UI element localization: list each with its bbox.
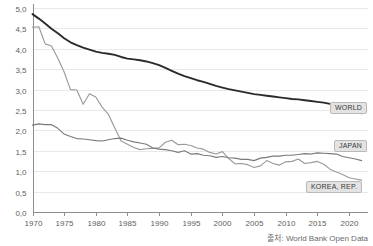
- y-axis-tick-label: 1,5: [15, 148, 27, 157]
- x-axis-tick-label: 1990: [151, 219, 169, 228]
- series-label-korea: KOREA, REP.: [306, 181, 362, 193]
- y-axis-tick-label: 4,0: [15, 46, 27, 55]
- x-axis-tick-label: 2000: [214, 219, 232, 228]
- y-axis-tick-label: 0,5: [15, 189, 27, 198]
- y-axis-tick-label: 2,0: [15, 127, 27, 136]
- x-axis-tick-label: 2015: [309, 219, 327, 228]
- x-axis-tick-label: 1995: [183, 219, 201, 228]
- series-label-japan: JAPAN: [334, 140, 367, 152]
- x-axis-tick-label: 2020: [341, 219, 359, 228]
- series-line-japan: [33, 124, 362, 161]
- fertility-rate-line-chart: 0,00,51,01,52,02,53,03,54,04,55,01970197…: [0, 0, 373, 246]
- y-axis-tick-label: 5,0: [15, 5, 27, 14]
- x-axis-tick-label: 1980: [88, 219, 106, 228]
- source-note: 출처: World Bank Open Data: [267, 232, 368, 243]
- y-axis-tick-label: 2,5: [15, 107, 27, 116]
- x-axis-tick-label: 1970: [25, 219, 43, 228]
- x-axis-tick-label: 1985: [119, 219, 137, 228]
- x-axis-tick-label: 2010: [278, 219, 296, 228]
- series-label-world: WORLD: [330, 102, 367, 114]
- y-axis-tick-label: 0,0: [15, 209, 27, 218]
- y-axis-tick-label: 3,5: [15, 66, 27, 75]
- y-axis-tick-label: 3,0: [15, 87, 27, 96]
- y-axis-tick-label: 1,0: [15, 168, 27, 177]
- chart-plot-area: 0,00,51,01,52,02,53,03,54,04,55,01970197…: [0, 0, 373, 246]
- x-axis-tick-label: 1975: [56, 219, 74, 228]
- x-axis-tick-label: 2005: [246, 219, 264, 228]
- y-axis-tick-label: 4,5: [15, 25, 27, 34]
